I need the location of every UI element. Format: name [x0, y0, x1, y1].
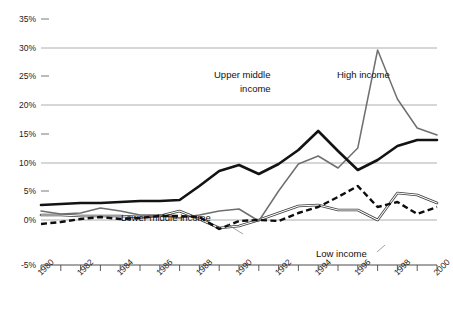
label-low-income: Low income	[316, 248, 367, 259]
label-upper-middle-income-line2: income	[240, 83, 271, 94]
y-axis-labels: 35% 30% 25% 20% 15% 10% 5% 0% -5%	[19, 14, 36, 270]
label-lower-middle-income: Lower middle income	[121, 212, 211, 223]
x-label-1990: 1990	[233, 257, 254, 278]
y-label-0: 0%	[24, 215, 37, 225]
line-chart: 35% 30% 25% 20% 15% 10% 5% 0% -5% Upper …	[0, 0, 453, 326]
label-high-income: High income	[337, 69, 390, 80]
y-label-20: 20%	[19, 100, 36, 110]
lower-middle-income-inner	[41, 193, 437, 228]
series-high-income	[41, 131, 437, 205]
y-label-30: 30%	[19, 43, 36, 53]
x-label-1988: 1988	[194, 257, 215, 278]
x-label-1980: 1980	[35, 257, 56, 278]
chart-canvas: 35% 30% 25% 20% 15% 10% 5% 0% -5% Upper …	[0, 0, 453, 326]
y-label-m5: -5%	[21, 260, 37, 270]
label-upper-middle-income-line1: Upper middle	[214, 69, 271, 80]
y-label-35: 35%	[19, 14, 36, 24]
x-label-1994: 1994	[313, 257, 334, 278]
series-lower-middle-income	[41, 193, 437, 228]
y-label-5: 5%	[24, 186, 37, 196]
x-label-1996: 1996	[352, 257, 373, 278]
x-label-1982: 1982	[75, 257, 96, 278]
y-label-10: 10%	[19, 158, 36, 168]
x-axis-labels: 1980 1982 1984 1986 1988 1990 1992 1994 …	[35, 257, 452, 278]
leader-low-income	[377, 245, 385, 252]
x-label-1992: 1992	[273, 257, 294, 278]
y-label-25: 25%	[19, 71, 36, 81]
y-label-15: 15%	[19, 129, 36, 139]
x-label-2000: 2000	[431, 257, 452, 278]
x-label-1984: 1984	[115, 257, 136, 278]
x-label-1998: 1998	[392, 257, 413, 278]
lower-middle-income-outline	[41, 193, 437, 228]
x-label-1986: 1986	[154, 257, 175, 278]
